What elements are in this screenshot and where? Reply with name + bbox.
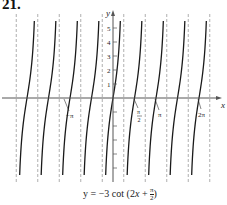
x-tick-label-pi-over-2: π bbox=[137, 109, 140, 115]
x-tick-label-neg-pi: −π bbox=[66, 112, 74, 120]
y-tick-label: 2 bbox=[107, 67, 111, 75]
y-tick-label: 3 bbox=[107, 53, 111, 61]
x-axis-label: x bbox=[220, 100, 225, 110]
svg-text:2: 2 bbox=[138, 117, 141, 123]
y-axis-label: y bbox=[105, 8, 110, 18]
x-tick-label-pi: π bbox=[158, 111, 162, 119]
y-tick-label: 1 bbox=[107, 81, 111, 89]
y-ticks: 12345 bbox=[107, 25, 117, 168]
graph-plot: 12345 y x −π π 2 π 2π bbox=[0, 0, 227, 205]
y-axis-arrow-icon bbox=[111, 10, 115, 16]
x-tick-label-2pi: 2π bbox=[198, 111, 206, 119]
y-tick-label: 4 bbox=[107, 39, 111, 47]
function-caption: y = −3 cot (2x + π2) bbox=[70, 187, 170, 202]
y-tick-label: 5 bbox=[107, 25, 111, 33]
